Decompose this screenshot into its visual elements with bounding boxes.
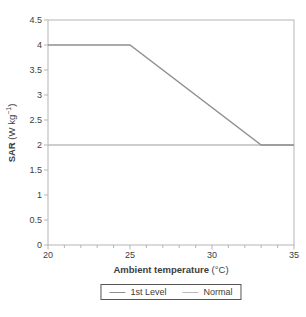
y-tick-label: 0: [37, 240, 42, 250]
y-axis-label-exponent: −1: [5, 107, 12, 115]
legend-label-1st-level: 1st Level: [130, 287, 166, 297]
y-axis-label: SAR (W kg−1): [5, 104, 17, 163]
chart-container: 2025303500.511.522.533.544.5 SAR (W kg−1…: [0, 0, 306, 317]
y-axis-label-unit-post: ): [6, 104, 17, 107]
x-axis-label-name: Ambient temperature: [113, 264, 209, 275]
series-line-1st-level: [48, 45, 294, 145]
legend-label-normal: Normal: [204, 287, 233, 297]
legend-item: 1st Level: [109, 287, 166, 297]
x-tick-label: 30: [207, 250, 217, 260]
y-tick-label: 1.5: [29, 165, 42, 175]
x-tick-label: 20: [43, 250, 53, 260]
y-tick-label: 2: [37, 140, 42, 150]
y-tick-label: 0.5: [29, 215, 42, 225]
y-tick-label: 4: [37, 40, 42, 50]
x-tick-label: 25: [125, 250, 135, 260]
legend-swatch-1st-level: [109, 292, 125, 293]
y-tick-label: 3: [37, 90, 42, 100]
x-axis-label: Ambient temperature (°C): [113, 264, 228, 275]
x-tick-label: 35: [289, 250, 299, 260]
y-tick-label: 1: [37, 190, 42, 200]
y-tick-label: 4.5: [29, 15, 42, 25]
y-axis-label-name: SAR: [6, 142, 17, 162]
x-axis-label-unit: (°C): [209, 264, 229, 275]
legend-swatch-normal: [183, 292, 199, 293]
legend-item: Normal: [183, 287, 233, 297]
y-tick-label: 3.5: [29, 65, 42, 75]
plot-border: [48, 20, 294, 245]
legend: 1st Level Normal: [100, 284, 241, 300]
y-axis-label-unit-pre: (W kg: [6, 115, 17, 142]
y-tick-label: 2.5: [29, 115, 42, 125]
